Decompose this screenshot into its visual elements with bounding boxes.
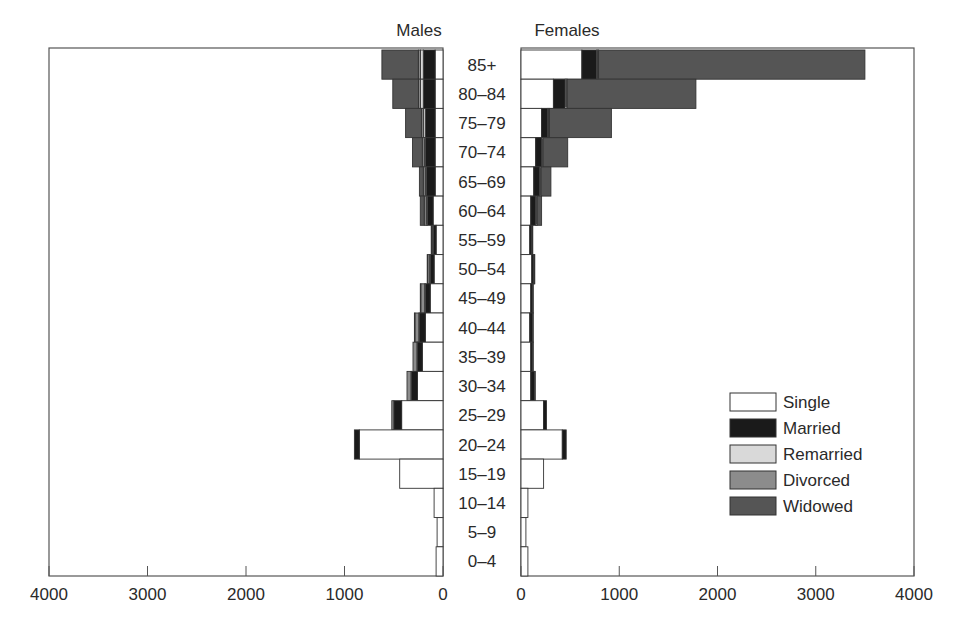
x-tick-label-left: 2000 — [227, 585, 265, 604]
age-label: 50–54 — [458, 260, 505, 279]
bar-single — [521, 79, 553, 108]
males-panel-frame — [49, 48, 443, 576]
bar-married — [582, 50, 597, 79]
legend-label-widowed: Widowed — [783, 497, 853, 516]
age-label: 85+ — [468, 56, 497, 75]
bar-single — [521, 138, 536, 167]
legend-label-married: Married — [783, 419, 841, 438]
bar-widowed — [382, 50, 418, 79]
bar-divorced — [533, 342, 534, 371]
bar-widowed — [537, 196, 541, 225]
bar-divorced — [413, 342, 417, 371]
x-tick-label-right: 2000 — [699, 585, 737, 604]
x-axes: 0010001000200020003000300040004000 — [30, 566, 933, 604]
bar-married — [425, 108, 435, 137]
bar-married — [530, 313, 533, 342]
bar-married — [423, 50, 435, 79]
bar-married — [531, 196, 536, 225]
bar-married — [531, 371, 535, 400]
age-label: 70–74 — [458, 143, 505, 162]
x-tick-label-left: 1000 — [326, 585, 364, 604]
bar-widowed — [420, 196, 424, 225]
bar-married — [394, 401, 402, 430]
bar-single — [521, 284, 531, 313]
bar-widowed — [532, 225, 533, 254]
bar-married — [426, 167, 435, 196]
x-tick-label-right: 0 — [516, 585, 525, 604]
bar-widowed — [413, 138, 423, 167]
age-label: 65–69 — [458, 173, 505, 192]
x-tick-label-right: 3000 — [797, 585, 835, 604]
x-tick-label-left: 3000 — [129, 585, 167, 604]
bar-single — [435, 108, 443, 137]
legend-label-remarried: Remarried — [783, 445, 862, 464]
bar-single — [521, 108, 542, 137]
legend-swatch-married — [730, 419, 776, 437]
bar-married — [544, 401, 547, 430]
bar-single — [435, 167, 443, 196]
age-label: 30–34 — [458, 377, 505, 396]
bar-divorced — [533, 313, 534, 342]
age-label: 10–14 — [458, 494, 505, 513]
age-label: 25–29 — [458, 406, 505, 425]
bar-married — [534, 167, 540, 196]
bar-single — [400, 459, 443, 488]
bar-widowed — [599, 50, 865, 79]
bar-married — [536, 138, 542, 167]
bar-single — [436, 225, 443, 254]
age-label: 80–84 — [458, 85, 505, 104]
bar-single — [521, 430, 562, 459]
bar-widowed — [414, 313, 415, 342]
bar-married — [542, 108, 548, 137]
bar-widowed — [406, 108, 422, 137]
legend-swatch-single — [730, 393, 776, 411]
bar-divorced — [535, 371, 536, 400]
bar-single — [435, 79, 443, 108]
bar-single — [402, 401, 443, 430]
bar-married — [419, 313, 425, 342]
age-label: 75–79 — [458, 114, 505, 133]
bar-widowed — [567, 79, 696, 108]
males-bars — [354, 50, 443, 576]
bar-single — [433, 196, 443, 225]
bar-widowed — [419, 167, 423, 196]
bar-married — [425, 138, 435, 167]
bar-single — [521, 488, 528, 517]
bar-single — [422, 342, 443, 371]
age-label: 60–64 — [458, 202, 505, 221]
legend-label-single: Single — [783, 393, 830, 412]
bar-widowed — [427, 255, 428, 284]
bar-single — [434, 488, 443, 517]
bar-divorced — [415, 313, 419, 342]
bar-single — [435, 50, 443, 79]
bar-married — [423, 79, 435, 108]
bar-married — [354, 430, 359, 459]
bar-single — [521, 342, 531, 371]
age-group-labels: 85+80–8475–7970–7465–6960–6455–5950–5445… — [458, 56, 505, 572]
legend-label-divorced: Divorced — [783, 471, 850, 490]
bar-widowed — [420, 284, 421, 313]
bar-widowed — [541, 167, 551, 196]
age-label: 0–4 — [468, 552, 496, 571]
bar-single — [435, 138, 443, 167]
age-label: 15–19 — [458, 465, 505, 484]
bar-single — [417, 371, 443, 400]
bar-single — [521, 167, 534, 196]
bar-single — [521, 547, 528, 576]
age-label: 35–39 — [458, 348, 505, 367]
bar-single — [359, 430, 443, 459]
bar-single — [521, 225, 530, 254]
bar-widowed — [431, 225, 432, 254]
bar-widowed — [534, 255, 535, 284]
bar-married — [430, 255, 434, 284]
bar-single — [521, 371, 531, 400]
bar-single — [430, 284, 443, 313]
bar-divorced — [392, 401, 394, 430]
x-tick-label-right: 4000 — [895, 585, 933, 604]
age-label: 40–44 — [458, 319, 505, 338]
bar-single — [521, 255, 532, 284]
males-panel-title: Males — [396, 21, 441, 40]
x-tick-label-left: 4000 — [30, 585, 68, 604]
bar-single — [425, 313, 443, 342]
bar-single — [521, 401, 544, 430]
